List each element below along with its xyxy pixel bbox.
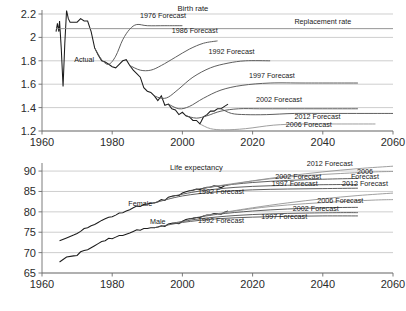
y-tick-label: 80 [24, 206, 36, 218]
annotation-forecast-1992: 1992 Forecast [209, 47, 255, 56]
y-tick-label: 90 [24, 165, 36, 177]
annotation-female-forecast-2012: 2012 Forecast [307, 159, 353, 168]
series-1986-forecast [130, 41, 218, 71]
annotation-female: Female [128, 199, 152, 208]
annotation-forecast-2002: 2002 Forecast [256, 95, 302, 104]
annotation-female-forecast-1992: 1992 Forecast [198, 187, 244, 196]
annotation-forecast-1976: 1976 Forecast [140, 11, 186, 20]
life-expectancy-panel: 657075808590196019802000202020402060Life… [0, 155, 406, 311]
y-tick-label: 1.6 [21, 78, 36, 90]
y-tick-labels: 657075808590 [24, 165, 36, 279]
annotation-female-forecast-1997: 1997 Forecast [272, 179, 318, 188]
x-tick-label: 2020 [240, 278, 264, 290]
y-tick-label: 70 [24, 247, 36, 259]
annotation-life-expectancy: Life expectancy [170, 163, 223, 172]
life-expectancy-chart: 657075808590196019802000202020402060Life… [0, 155, 406, 311]
x-tick-label: 1960 [30, 136, 54, 148]
x-tick-label: 2060 [381, 136, 405, 148]
annotation-forecast-1986: 1986 Forecast [172, 26, 218, 35]
x-tick-labels: 196019802000202020402060 [30, 136, 405, 148]
annotation-actual: Actual [74, 55, 94, 64]
y-tick-label: 2.2 [21, 8, 36, 20]
series-1976-forecast [95, 24, 183, 64]
annotation-male-forecast-1997: 1997 Forecast [261, 212, 307, 221]
x-tick-label: 2000 [170, 136, 194, 148]
birth-rate-chart: 1.21.41.61.822.2196019802000202020402060… [0, 0, 406, 155]
figure-root: 1.21.41.61.822.2196019802000202020402060… [0, 0, 406, 311]
y-tick-label: 1.8 [21, 55, 36, 67]
annotations-group: Birth rateReplacement rateActual1976 For… [74, 4, 351, 129]
annotation-forecast-1997: 1997 Forecast [249, 71, 295, 80]
y-tick-label: 85 [24, 185, 36, 197]
x-tick-label: 2000 [170, 278, 194, 290]
x-tick-labels: 196019802000202020402060 [30, 278, 405, 290]
y-tick-label: 2 [30, 31, 36, 43]
x-tick-label: 1960 [30, 278, 54, 290]
y-tick-label: 1.4 [21, 102, 36, 114]
annotation-forecast-2006: 2006 Forecast [286, 120, 332, 129]
series-group [56, 10, 393, 129]
x-tick-label: 2040 [311, 278, 335, 290]
annotation-male: Male [150, 217, 166, 226]
x-tick-label: 1980 [100, 278, 124, 290]
x-tick-label: 2020 [240, 136, 264, 148]
annotation-replacement-rate: Replacement rate [294, 17, 351, 26]
annotation-male-forecast-2012: 2012 Forecast [342, 179, 388, 188]
annotation-male-forecast-1992: 1992 Forecast [198, 216, 244, 225]
y-tick-labels: 1.21.41.61.822.2 [21, 8, 36, 137]
series-male-1992-forecast [154, 216, 358, 228]
x-tick-label: 2040 [311, 136, 335, 148]
y-tick-label: 75 [24, 226, 36, 238]
birth-rate-panel: 1.21.41.61.822.2196019802000202020402060… [0, 0, 406, 155]
x-tick-label: 2060 [381, 278, 405, 290]
x-tick-label: 1980 [100, 136, 124, 148]
